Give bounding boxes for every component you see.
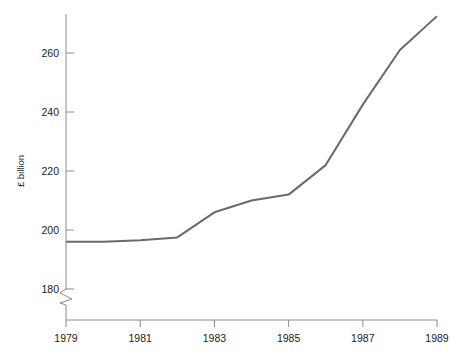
y-tick-label: 240 bbox=[41, 106, 59, 118]
x-tick-label: 1983 bbox=[203, 332, 227, 344]
chart-screenshot: 180 200 220 240 260 £ billion 1979 1981 … bbox=[0, 0, 451, 359]
y-tick-label: 180 bbox=[41, 283, 59, 295]
line-chart: 180 200 220 240 260 £ billion 1979 1981 … bbox=[0, 0, 451, 359]
x-tick-label: 1989 bbox=[425, 332, 449, 344]
x-tick-label: 1981 bbox=[129, 332, 153, 344]
y-axis-title: £ billion bbox=[15, 155, 26, 187]
y-tick-label: 220 bbox=[41, 165, 59, 177]
y-tick-label: 260 bbox=[41, 47, 59, 59]
x-tick-label: 1987 bbox=[351, 332, 375, 344]
x-tick-label: 1979 bbox=[54, 332, 78, 344]
x-tick-label: 1985 bbox=[277, 332, 301, 344]
chart-background bbox=[0, 0, 451, 359]
y-tick-label: 200 bbox=[41, 224, 59, 236]
